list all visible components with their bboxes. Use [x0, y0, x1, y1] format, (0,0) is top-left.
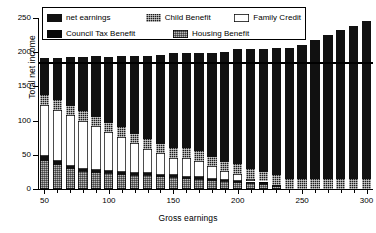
bar-segment-housing-benefit: [259, 184, 268, 189]
legend-item-housing-benefit[interactable]: Housing Benefit: [173, 29, 249, 38]
bar-segment-family-credit: [104, 132, 113, 171]
legend-item-council-tax-benefit[interactable]: Council Tax Benefit: [47, 29, 173, 38]
bar-110[interactable]: [117, 56, 126, 189]
y-tick-250: 250: [33, 18, 38, 19]
bar-segment-child-benefit: [182, 148, 191, 158]
bar-290[interactable]: [349, 26, 358, 189]
bar-220[interactable]: [259, 49, 268, 189]
legend-label-council-tax-benefit: Council Tax Benefit: [66, 29, 135, 38]
bar-90[interactable]: [91, 56, 100, 189]
bar-120[interactable]: [130, 56, 139, 189]
legend-item-child-benefit[interactable]: Child Benefit: [146, 13, 234, 22]
bar-150[interactable]: [169, 53, 178, 189]
x-tick-100: [109, 190, 110, 194]
bar-segment-child-benefit: [207, 157, 216, 167]
bar-segment-net-earnings: [40, 58, 49, 95]
legend-item-net-earnings[interactable]: net earnings: [47, 13, 146, 22]
bar-segment-child-benefit: [233, 164, 242, 174]
bar-segment-housing-benefit: [78, 171, 87, 189]
bar-140[interactable]: [156, 55, 165, 189]
bar-segment-housing-benefit: [272, 186, 281, 189]
x-tick-210: [251, 190, 252, 193]
bar-segment-housing-benefit: [156, 176, 165, 189]
bar-230[interactable]: [272, 48, 281, 189]
bar-segment-child-benefit: [78, 111, 87, 121]
legend-label-child-benefit: Child Benefit: [165, 13, 211, 22]
bar-segment-net-earnings: [194, 53, 203, 151]
bar-200[interactable]: [233, 49, 242, 189]
bar-segment-family-credit: [91, 126, 100, 170]
bar-segment-housing-benefit: [40, 160, 49, 189]
bar-segment-housing-benefit: [143, 175, 152, 189]
bar-270[interactable]: [323, 35, 332, 189]
bar-60[interactable]: [53, 58, 62, 189]
bar-segment-child-benefit: [323, 179, 332, 189]
bar-170[interactable]: [194, 53, 203, 189]
bar-segment-council-tax-benefit: [272, 185, 281, 186]
bar-segment-council-tax-benefit: [66, 166, 75, 169]
legend-label-net-earnings: net earnings: [66, 13, 111, 22]
bar-segment-net-earnings: [233, 49, 242, 164]
bar-segment-child-benefit: [297, 179, 306, 189]
bar-segment-net-earnings: [272, 48, 281, 175]
bar-130[interactable]: [143, 56, 152, 189]
bar-segment-council-tax-benefit: [194, 177, 203, 178]
bar-segment-family-credit: [130, 143, 139, 172]
x-tick-200: [238, 190, 239, 194]
x-tick-240: [289, 190, 290, 193]
y-tick-100: 100: [33, 121, 38, 122]
bar-segment-council-tax-benefit: [78, 169, 87, 171]
x-tick-130: [148, 190, 149, 193]
bar-70[interactable]: [66, 57, 75, 189]
bar-segment-council-tax-benefit: [91, 170, 100, 172]
bar-240[interactable]: [285, 48, 294, 189]
bar-segment-housing-benefit: [117, 174, 126, 189]
x-tick-150: [173, 190, 174, 194]
bar-segment-net-earnings: [310, 40, 319, 180]
bar-segment-family-credit: [66, 115, 75, 166]
bar-segment-net-earnings: [220, 52, 229, 161]
bar-segment-child-benefit: [285, 179, 294, 189]
x-tick-120: [135, 190, 136, 193]
bar-160[interactable]: [182, 53, 191, 189]
legend-label-family-credit: Family Credit: [253, 13, 301, 22]
bar-segment-net-earnings: [182, 53, 191, 148]
bar-100[interactable]: [104, 57, 113, 189]
bar-280[interactable]: [336, 30, 345, 189]
x-tick-80: [83, 190, 84, 193]
bar-250[interactable]: [297, 45, 306, 189]
bar-segment-council-tax-benefit: [220, 180, 229, 181]
legend-swatch-council-tax-benefit: [47, 30, 62, 38]
bar-segment-net-earnings: [259, 49, 268, 172]
x-tick-160: [186, 190, 187, 193]
y-tick-150: 150: [33, 86, 38, 87]
bar-190[interactable]: [220, 52, 229, 189]
y-tick-label-0: 0: [27, 184, 31, 193]
bar-segment-net-earnings: [117, 56, 126, 127]
x-tick-290: [354, 190, 355, 193]
legend: net earnings Child Benefit Family Credit…: [42, 7, 306, 40]
legend-item-family-credit[interactable]: Family Credit: [234, 13, 301, 22]
x-tick-190: [225, 190, 226, 193]
x-tick-label-150: 150: [167, 196, 180, 205]
bar-210[interactable]: [246, 49, 255, 189]
y-tick-label-250: 250: [18, 13, 31, 22]
bar-segment-family-credit: [233, 174, 242, 181]
bar-50[interactable]: [40, 58, 49, 189]
bar-segment-council-tax-benefit: [182, 177, 191, 178]
x-tick-label-300: 300: [360, 196, 373, 205]
bar-300[interactable]: [362, 21, 371, 189]
bar-segment-council-tax-benefit: [246, 182, 255, 183]
legend-swatch-family-credit: [234, 14, 249, 22]
bar-segment-net-earnings: [246, 49, 255, 169]
y-tick-label-50: 50: [22, 150, 31, 159]
bar-segment-council-tax-benefit: [169, 175, 178, 176]
x-tick-90: [96, 190, 97, 193]
bar-segment-council-tax-benefit: [259, 183, 268, 184]
bar-segment-child-benefit: [259, 172, 268, 182]
bar-segment-family-credit: [156, 153, 165, 174]
bar-80[interactable]: [78, 57, 87, 189]
bar-segment-family-credit: [78, 121, 87, 170]
bar-segment-child-benefit: [130, 134, 139, 144]
bar-180[interactable]: [207, 53, 216, 189]
